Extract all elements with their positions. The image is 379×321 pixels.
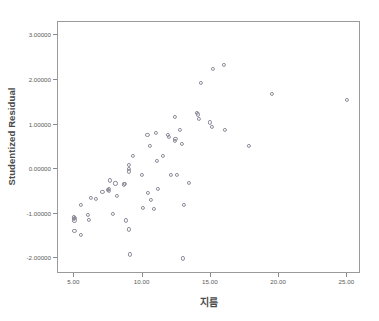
data-point [181,203,185,207]
data-point [123,218,127,222]
x-axis-tick-mark [278,273,279,277]
data-point [140,172,144,176]
data-point [161,154,165,158]
data-point [180,142,184,146]
data-point [131,154,135,158]
data-point [89,196,93,200]
data-point [108,178,112,182]
plot-data-area [58,22,359,272]
x-axis-tick-mark [210,273,211,277]
data-point [155,159,159,163]
data-point [173,115,177,119]
data-point [86,213,90,217]
data-point [148,143,152,147]
data-point [113,181,117,185]
data-point [73,216,77,220]
x-axis-tick-label: 20.00 [270,278,285,285]
x-axis-tick-label: 15.00 [202,278,217,285]
data-point [127,169,131,173]
y-axis-tick-label: 1.00000 [5,120,51,127]
data-point [127,227,131,231]
data-point [345,98,349,102]
x-axis-tick-mark [73,273,74,277]
y-axis-tick-label: 2.00000 [5,75,51,82]
data-point [152,207,156,211]
data-point [169,172,173,176]
data-point [123,182,127,186]
data-point [72,229,76,233]
data-point [94,197,98,201]
data-point [187,180,191,184]
data-point [145,133,149,137]
data-point [115,193,119,197]
data-point [247,143,251,147]
data-point [211,67,215,71]
data-point [175,172,179,176]
data-point [100,190,104,194]
data-point [222,128,226,132]
data-point [78,203,82,207]
y-axis-tick-label: 3.00000 [5,31,51,38]
y-axis-tick-label: -1.00000 [5,209,51,216]
x-axis-tick-mark [142,273,143,277]
data-point [222,63,226,67]
data-point [173,137,177,141]
x-axis-tick-label: 10.00 [134,278,149,285]
data-point [166,135,170,139]
x-axis-title: 지름 [57,294,360,309]
data-point [196,112,200,116]
y-axis-tick-label: 0.00000 [5,165,51,172]
plot-frame [57,21,360,273]
data-point [154,131,158,135]
data-point [199,81,203,85]
data-point [181,256,185,260]
data-point [141,205,145,209]
x-axis-tick-label: 25.00 [339,278,354,285]
y-axis-title: Studentized Residual [0,0,22,273]
x-axis-tick-mark [346,273,347,277]
data-point [149,198,153,202]
x-axis-tick-label: 5.00 [67,278,79,285]
data-point [270,92,274,96]
scatter-plot-figure: Studentized Residual 3.000002.000001.000… [0,0,379,321]
data-point [128,252,132,256]
y-axis-tick-label: -2.00000 [5,254,51,261]
data-point [146,191,150,195]
data-point [208,120,212,124]
data-point [79,233,83,237]
data-point [178,128,182,132]
data-point [111,212,115,216]
data-point [87,217,91,221]
data-point [196,117,200,121]
data-point [156,187,160,191]
data-point [210,125,214,129]
